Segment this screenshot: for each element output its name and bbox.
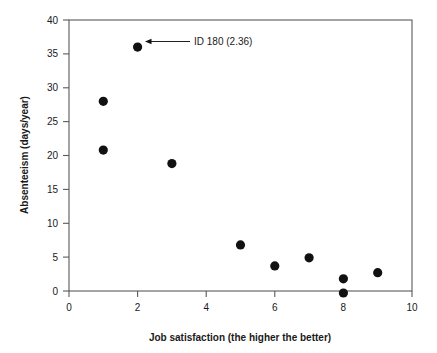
y-tick-label: 20	[47, 150, 59, 161]
x-tick-label: 4	[203, 302, 209, 313]
x-tick-label: 10	[406, 302, 418, 313]
x-tick-label: 6	[272, 302, 278, 313]
data-point	[167, 159, 176, 168]
data-point	[373, 268, 382, 277]
chart-background	[0, 0, 437, 353]
y-tick-label: 10	[47, 218, 59, 229]
y-tick-label: 15	[47, 184, 59, 195]
y-tick-label: 40	[47, 15, 59, 26]
data-point	[133, 43, 142, 52]
data-point	[339, 274, 348, 283]
y-axis-title: Absenteeism (days/year)	[19, 96, 30, 214]
y-tick-label: 25	[47, 116, 59, 127]
y-tick-label: 5	[52, 252, 58, 263]
x-tick-label: 8	[341, 302, 347, 313]
y-tick-label: 35	[47, 48, 59, 59]
data-point	[305, 253, 314, 262]
data-point	[339, 288, 348, 297]
x-tick-label: 2	[135, 302, 141, 313]
data-point	[270, 261, 279, 270]
annotation-label: ID 180 (2.36)	[194, 36, 252, 47]
y-tick-label: 30	[47, 82, 59, 93]
scatter-chart: 0 5 10 15 20 25 30 35 40 0 2 4 6 8 10 Jo…	[0, 0, 437, 353]
x-axis-title: Job satisfaction (the higher the better)	[149, 332, 331, 343]
x-tick-label: 0	[66, 302, 72, 313]
y-tick-label: 0	[52, 286, 58, 297]
data-point	[99, 97, 108, 106]
data-point	[236, 240, 245, 249]
data-point	[99, 146, 108, 155]
